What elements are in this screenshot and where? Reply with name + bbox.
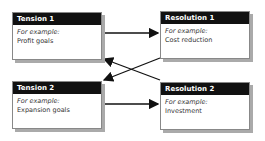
resolution-2-title: Resolution 2 [161, 83, 249, 95]
tension-1-example: Profit goals [17, 37, 53, 45]
tension-1-box: Tension 1 For example: Profit goals [12, 12, 102, 60]
resolution-1-title: Resolution 1 [161, 12, 249, 24]
resolution-1-box: Resolution 1 For example: Cost reduction [160, 11, 250, 59]
resolution-2-example: Investment [165, 107, 202, 115]
resolution-1-example-label: For example: [165, 27, 245, 36]
resolution-2-box: Resolution 2 For example: Investment [160, 82, 250, 130]
tension-2-box: Tension 2 For example: Expansion goals [12, 81, 102, 129]
resolution-2-example-label: For example: [165, 98, 245, 107]
tension-2-example-label: For example: [17, 97, 97, 106]
resolution-1-example: Cost reduction [165, 36, 212, 44]
tension-2-example: Expansion goals [17, 106, 70, 114]
tension-2-title: Tension 2 [13, 82, 101, 94]
tension-1-title: Tension 1 [13, 13, 101, 25]
tension-1-example-label: For example: [17, 28, 97, 37]
